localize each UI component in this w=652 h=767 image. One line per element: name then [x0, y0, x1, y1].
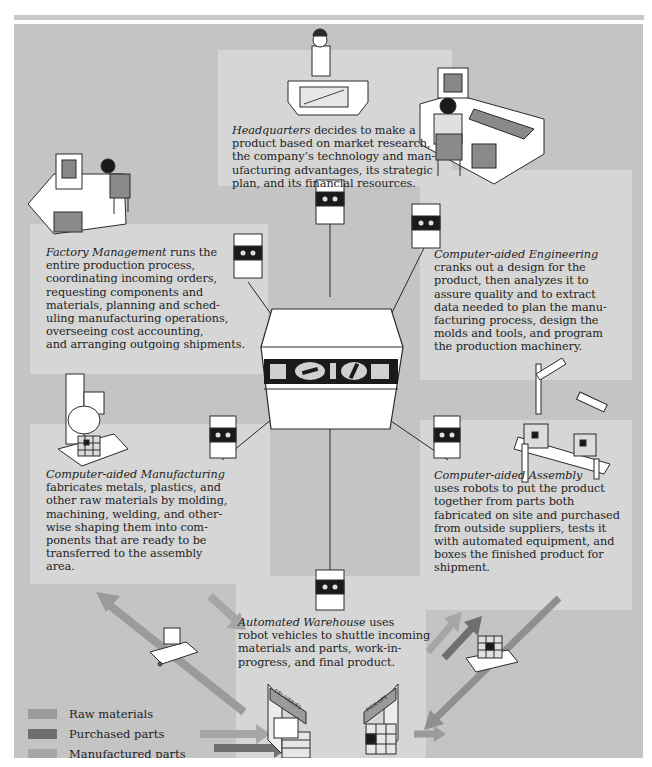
cae-description: Computer-aided Engineering cranks out a … — [434, 248, 643, 354]
cam-description: Computer-aided Manufacturing fabricates … — [46, 468, 276, 574]
central-computer-icon — [261, 309, 403, 429]
caa-title: Computer-aided Assembly — [434, 469, 582, 482]
headquarters-description: Headquarters decides to make a product b… — [232, 124, 452, 190]
top-rule — [14, 15, 644, 20]
cam-title: Computer-aided Manufacturing — [46, 468, 225, 481]
cam-machine-icon — [58, 374, 128, 466]
legend: Raw materials Purchased parts Manufactur… — [28, 704, 186, 758]
headquarters-icon — [288, 29, 368, 115]
factory-management-icon — [28, 154, 130, 234]
headquarters-title: Headquarters — [232, 124, 310, 137]
cae-title: Computer-aided Engineering — [434, 248, 598, 261]
diagram-panel: DELIVERIES PICK-UPS Headquarters decides… — [14, 24, 643, 758]
legend-item-purchased-parts: Purchased parts — [28, 724, 186, 744]
legend-item-manufactured-parts: Manufactured parts — [28, 744, 186, 758]
factory-management-title: Factory Management — [46, 246, 167, 259]
assembly-robots-icon — [514, 358, 610, 482]
purchased-parts-swatch — [28, 729, 57, 739]
warehouse-title: Automated Warehouse — [238, 616, 366, 629]
factory-management-description: Factory Management runs the entire produ… — [46, 246, 276, 352]
caa-description: Computer-aided Assembly uses robots to p… — [434, 469, 643, 575]
legend-item-raw-materials: Raw materials — [28, 704, 186, 724]
raw-materials-swatch — [28, 709, 57, 719]
manufactured-parts-swatch — [28, 749, 57, 758]
warehouse-description: Automated Warehouse uses robot vehicles … — [238, 616, 458, 669]
